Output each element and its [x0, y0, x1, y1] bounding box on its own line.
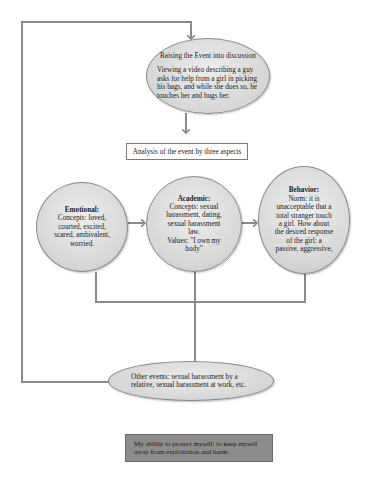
- other-events-label: Other events: sexual harassment by a rel…: [131, 373, 251, 390]
- emotional-line: Concepts: loved,: [58, 214, 106, 222]
- emotional-line: courted, excited,: [58, 223, 106, 231]
- analysis-label: Analysis of the event by three aspects: [133, 148, 242, 156]
- behavior-aspect-node: Behavior: Norm: it is unacceptable that …: [258, 166, 350, 274]
- event-discussion-title: Raising the Event into discussion: [160, 52, 256, 60]
- academic-line: harassment, dating,: [166, 211, 222, 219]
- outcome-box: My ability to protect myself; to keep my…: [125, 434, 273, 462]
- academic-line: Concepts: sexual: [170, 203, 219, 211]
- event-discussion-node: Raising the Event into discussion Viewin…: [146, 38, 270, 114]
- aspects-bracket: [96, 272, 305, 302]
- emotional-line: worried.: [70, 240, 94, 248]
- academic-line: sexual harassment: [168, 220, 221, 228]
- emotional-line: scared, ambivalent,: [54, 231, 110, 239]
- outcome-label: My ability to protect myself; to keep my…: [134, 440, 264, 457]
- academic-line: Values: "I own my: [167, 237, 220, 245]
- behavior-line: total stranger touch: [276, 212, 332, 220]
- academic-line: law.: [188, 228, 200, 236]
- behavior-line: of the girl: a: [286, 237, 321, 245]
- behavior-line: passive, aggressive,: [276, 245, 333, 253]
- emotional-title: Emotional:: [65, 206, 99, 214]
- analysis-box: Analysis of the event by three aspects: [126, 143, 248, 160]
- behavior-line: unacceptable that a: [276, 203, 331, 211]
- behavior-line: a girl. How about: [279, 220, 329, 228]
- behavior-line: the desired response: [275, 228, 333, 236]
- behavior-title: Behavior:: [289, 186, 319, 194]
- academic-title: Academic:: [178, 195, 211, 203]
- academic-aspect-node: Academic: Concepts: sexual harassment, d…: [146, 176, 242, 272]
- event-discussion-body: Viewing a video describing a guy asks fo…: [157, 66, 259, 100]
- other-events-node: Other events: sexual harassment by a rel…: [108, 361, 274, 401]
- academic-line: body": [185, 245, 202, 253]
- emotional-aspect-node: Emotional: Concepts: loved, courted, exc…: [36, 182, 128, 272]
- behavior-line: Norm: it is: [288, 195, 319, 203]
